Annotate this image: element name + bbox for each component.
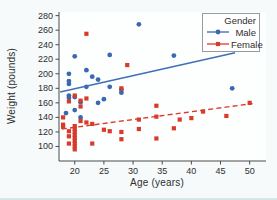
female-point (67, 99, 71, 103)
male-point (107, 52, 112, 57)
female-point (73, 147, 77, 151)
female-legend-marker (205, 39, 231, 49)
y-tick-label: 180 (38, 83, 53, 93)
female-point (84, 96, 88, 100)
male-point (136, 22, 141, 27)
female-point (189, 116, 193, 120)
female-point (61, 115, 65, 119)
female-point (67, 141, 71, 145)
male-point (67, 71, 72, 76)
legend-title: Gender (205, 15, 256, 26)
male-point (90, 74, 95, 79)
y-tick-label: 260 (38, 25, 53, 35)
female-point (78, 99, 82, 103)
female-point (137, 127, 141, 131)
legend-label-female: Female (231, 39, 263, 50)
x-tick-label: 35 (157, 166, 167, 176)
female-point (90, 141, 94, 145)
x-axis-label: Age (years) (130, 177, 184, 188)
female-point (178, 117, 182, 121)
legend-label-male: Male (231, 27, 256, 38)
male-point (72, 54, 77, 59)
male-point (96, 77, 101, 82)
male-point (67, 82, 72, 87)
female-point (73, 93, 77, 97)
female-point (119, 130, 123, 134)
legend-item-female: Female (205, 38, 256, 50)
y-tick-label: 100 (38, 141, 53, 151)
x-tick-label: 30 (128, 166, 138, 176)
female-point (84, 32, 88, 36)
y-axis-label: Weight (pounds) (6, 48, 17, 124)
female-point (102, 128, 106, 132)
y-tick-label: 140 (38, 112, 53, 122)
female-point (78, 119, 82, 123)
male-point (84, 68, 89, 73)
male-point (96, 100, 101, 105)
male-point (119, 90, 124, 95)
x-tick-label: 40 (186, 166, 196, 176)
y-tick-label: 240 (38, 40, 53, 50)
female-point (154, 136, 158, 140)
y-tick-label: 220 (38, 54, 53, 64)
male-legend-marker (205, 27, 231, 37)
x-tick-label: 25 (99, 166, 109, 176)
y-tick-label: 200 (38, 69, 53, 79)
x-tick-label: 50 (245, 166, 255, 176)
female-point (67, 134, 71, 138)
x-tick-label: 45 (216, 166, 226, 176)
female-point (78, 104, 82, 108)
female-point (125, 63, 129, 67)
scatter-plot-figure: 2025303540455010012014016018020022024026… (0, 0, 277, 200)
legend: Gender Male Female (202, 13, 260, 52)
female-point (224, 114, 228, 118)
female-point (154, 104, 158, 108)
male-point (171, 53, 176, 58)
male-point (107, 84, 112, 89)
male-point (230, 86, 235, 91)
y-tick-label: 120 (38, 127, 53, 137)
female-point (119, 86, 123, 90)
legend-item-male: Male (205, 26, 256, 38)
female-point (84, 120, 88, 124)
y-tick-label: 160 (38, 98, 53, 108)
female-point (67, 129, 71, 133)
male-point (64, 111, 69, 116)
male-point (101, 97, 106, 102)
female-point (119, 137, 123, 141)
female-point (108, 129, 112, 133)
x-tick-label: 20 (70, 166, 80, 176)
female-point (172, 126, 176, 130)
y-tick-label: 280 (38, 11, 53, 21)
male-point (72, 108, 77, 113)
